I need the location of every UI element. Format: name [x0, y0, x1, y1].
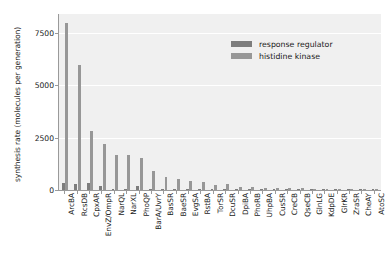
x-tick-mark — [163, 191, 164, 194]
x-tick-mark — [349, 191, 350, 194]
x-tick-mark — [225, 191, 226, 194]
x-tick-mark — [324, 191, 325, 194]
chart-figure: synthesis rate (molecules per generation… — [0, 0, 385, 273]
x-tick-mark — [126, 191, 127, 194]
x-tick-label: BaeSR — [179, 193, 188, 216]
legend-swatch — [231, 41, 252, 47]
x-tick-mark — [238, 191, 239, 194]
x-tick-mark — [312, 191, 313, 194]
y-tick-label: 2500 — [14, 133, 54, 142]
x-tick-label: CheAY — [364, 193, 373, 216]
x-tick-mark — [151, 191, 152, 194]
x-tick-mark — [213, 191, 214, 194]
x-tick-mark — [77, 191, 78, 194]
x-tick-mark — [374, 191, 375, 194]
x-tick-mark — [300, 191, 301, 194]
x-tick-label: NarQL — [117, 193, 126, 216]
x-tick-label: DpiBA — [241, 193, 250, 215]
x-tick-label: QseCB — [303, 193, 312, 217]
x-tick-label: DcuSR — [228, 193, 237, 217]
bar — [65, 23, 68, 190]
x-tick-mark — [250, 191, 251, 194]
x-tick-mark — [262, 191, 263, 194]
x-tick-label: BarA/UvrY — [154, 193, 163, 230]
bar — [103, 144, 106, 190]
x-tick-mark — [114, 191, 115, 194]
x-tick-label: GlnLG — [315, 193, 324, 215]
x-tick-mark — [101, 191, 102, 194]
y-tick-label: 5000 — [14, 81, 54, 90]
bar — [165, 177, 168, 190]
x-tick-label: NarXL — [129, 193, 138, 215]
x-tick-label: RcsDB — [80, 193, 89, 216]
bar — [62, 183, 65, 190]
x-tick-label: UhpBA — [265, 193, 274, 217]
x-tick-label: ZraSR — [352, 193, 361, 215]
x-tick-label: CreCB — [290, 193, 299, 215]
x-tick-mark — [188, 191, 189, 194]
y-tick-mark — [55, 190, 58, 191]
x-tick-mark — [139, 191, 140, 194]
x-tick-mark — [275, 191, 276, 194]
y-tick-label: 0 — [14, 186, 54, 195]
x-tick-label: CpxAR — [92, 193, 101, 217]
x-axis-line — [58, 190, 381, 191]
x-tick-label: AtoSC — [377, 193, 385, 215]
x-tick-label: PhoRB — [253, 193, 262, 216]
x-tick-mark — [64, 191, 65, 194]
legend-item: response regulator — [231, 38, 333, 50]
x-tick-label: CusSR — [278, 193, 287, 216]
x-tick-mark — [176, 191, 177, 194]
bar — [127, 155, 130, 190]
legend-label: response regulator — [259, 40, 333, 49]
x-tick-label: BasSR — [166, 193, 175, 216]
y-axis-label: synthesis rate (molecules per generation… — [13, 10, 22, 200]
bar — [90, 131, 93, 190]
x-tick-mark — [200, 191, 201, 194]
x-tick-label: PhoQP — [142, 193, 151, 216]
bar — [140, 158, 143, 190]
x-tick-label: EvgSA — [191, 193, 200, 216]
chart-legend: response regulatorhistidine kinase — [231, 38, 333, 62]
bar — [177, 179, 180, 190]
x-tick-mark — [89, 191, 90, 194]
bar — [189, 181, 192, 190]
bar — [115, 155, 118, 190]
x-tick-label: RstBA — [203, 193, 212, 215]
legend-swatch — [231, 53, 252, 59]
y-tick-mark — [55, 138, 58, 139]
y-tick-mark — [55, 33, 58, 34]
bar — [152, 171, 155, 190]
x-tick-mark — [287, 191, 288, 194]
legend-label: histidine kinase — [259, 52, 320, 61]
y-tick-mark — [55, 85, 58, 86]
x-tick-label: EnvZ/OmpR — [104, 193, 113, 236]
x-tick-label: GlrKR — [340, 193, 349, 213]
x-tick-label: ArcBA — [67, 193, 76, 215]
x-tick-mark — [361, 191, 362, 194]
bar — [202, 182, 205, 190]
bar — [87, 183, 90, 190]
y-tick-label: 7500 — [14, 28, 54, 37]
x-tick-label: TorSR — [216, 193, 225, 213]
legend-item: histidine kinase — [231, 50, 333, 62]
x-tick-label: KdpDE — [327, 193, 336, 217]
bar — [78, 65, 81, 190]
x-tick-mark — [337, 191, 338, 194]
